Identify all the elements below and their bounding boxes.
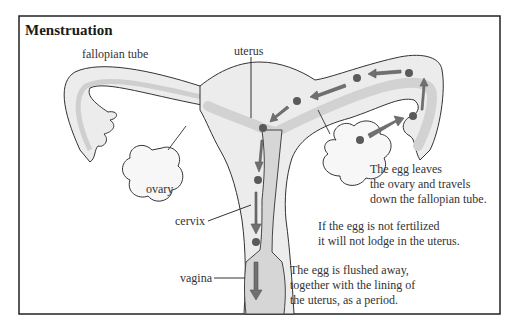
page-title: Menstruation [25,22,113,39]
note-not-fertilized: If the egg is not fertilized it will not… [318,219,460,249]
label-cervix: cervix [175,214,205,229]
note-egg-leaves: The egg leaves the ovary and travels dow… [370,162,487,207]
label-uterus: uterus [234,44,263,59]
note-flushed: The egg is flushed away, together with t… [290,263,415,308]
label-ovary: ovary [146,182,173,197]
label-fallopian-tube: fallopian tube [82,47,148,62]
label-vagina: vagina [180,271,212,286]
